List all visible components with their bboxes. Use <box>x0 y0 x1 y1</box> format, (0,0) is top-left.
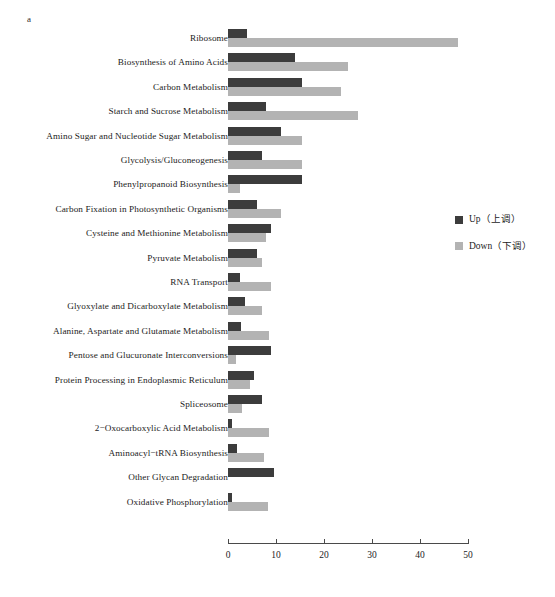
category-label: Glycolysis/Gluconeogenesis <box>121 156 228 165</box>
chart-row: Aminoacyl−tRNA Biosynthesis <box>0 442 555 466</box>
category-label: Protein Processing in Endoplasmic Reticu… <box>55 376 228 385</box>
bar-down <box>228 87 341 96</box>
bar-up <box>228 493 232 502</box>
panel-label: a <box>27 14 31 24</box>
bar-up <box>228 273 240 282</box>
bar-up <box>228 322 241 331</box>
category-label: Spliceosome <box>180 400 228 409</box>
category-label: Aminoacyl−tRNA Biosynthesis <box>109 449 228 458</box>
legend-item-down: Down（下调） <box>455 242 532 252</box>
bar-up <box>228 371 254 380</box>
bar-down <box>228 502 268 511</box>
chart-row: Phenylpropanoid Biosynthesis <box>0 173 555 197</box>
chart-row: Oxidative Phosphorylation <box>0 491 555 515</box>
x-axis-tick <box>228 539 229 544</box>
bar-down <box>228 331 269 340</box>
kegg-pathway-bar-chart: a RibosomeBiosynthesis of Amino AcidsCar… <box>0 0 555 597</box>
bar-up <box>228 127 281 136</box>
chart-row: Spliceosome <box>0 393 555 417</box>
bar-up <box>228 175 302 184</box>
category-label: Cysteine and Methionine Metabolism <box>86 230 228 239</box>
chart-row: Glyoxylate and Dicarboxylate Metabolism <box>0 295 555 319</box>
x-axis-tick-label: 40 <box>415 550 425 560</box>
bar-up <box>228 249 257 258</box>
bar-up <box>228 200 257 209</box>
bar-up <box>228 419 232 428</box>
bar-up <box>228 102 266 111</box>
chart-row: RNA Transport <box>0 271 555 295</box>
bar-up <box>228 53 295 62</box>
chart-row: Amino Sugar and Nucleotide Sugar Metabol… <box>0 125 555 149</box>
bar-up <box>228 444 237 453</box>
chart-row: Pentose and Glucuronate Interconversions <box>0 344 555 368</box>
chart-row: Carbon Metabolism <box>0 76 555 100</box>
x-axis-tick <box>372 539 373 544</box>
bar-down <box>228 38 458 47</box>
bar-down <box>228 184 240 193</box>
x-axis-tick <box>276 539 277 544</box>
legend-swatch-up <box>455 216 463 224</box>
category-label: Pentose and Glucuronate Interconversions <box>69 352 228 361</box>
bar-up <box>228 468 274 477</box>
x-axis-tick-label: 50 <box>463 550 473 560</box>
bar-up <box>228 346 271 355</box>
x-axis-tick-label: 0 <box>226 550 231 560</box>
bar-down <box>228 380 250 389</box>
chart-row: 2−Oxocarboxylic Acid Metabolism <box>0 417 555 441</box>
category-label: Carbon Fixation in Photosynthetic Organi… <box>55 205 228 214</box>
category-label: Ribosome <box>190 34 228 43</box>
bar-up <box>228 29 247 38</box>
category-label: 2−Oxocarboxylic Acid Metabolism <box>95 425 228 434</box>
bar-down <box>228 233 266 242</box>
bar-down <box>228 258 262 267</box>
category-label: RNA Transport <box>170 278 228 287</box>
category-label: Glyoxylate and Dicarboxylate Metabolism <box>67 303 228 312</box>
bar-up <box>228 78 302 87</box>
category-label: Carbon Metabolism <box>153 83 228 92</box>
chart-row: Alanine, Aspartate and Glutamate Metabol… <box>0 320 555 344</box>
legend-label-down: Down（下调） <box>469 242 532 252</box>
category-label: Amino Sugar and Nucleotide Sugar Metabol… <box>46 132 228 141</box>
x-axis-tick-label: 10 <box>271 550 281 560</box>
chart-row: Starch and Sucrose Metabolism <box>0 100 555 124</box>
x-axis-tick <box>468 539 469 544</box>
x-axis-tick-label: 20 <box>319 550 329 560</box>
bar-down <box>228 62 348 71</box>
x-axis-tick-label: 30 <box>367 550 377 560</box>
category-label: Phenylpropanoid Biosynthesis <box>113 181 228 190</box>
bar-up <box>228 224 271 233</box>
x-axis-tick <box>324 539 325 544</box>
chart-row: Other Glycan Degradation <box>0 466 555 490</box>
category-label: Biosynthesis of Amino Acids <box>118 59 228 68</box>
category-label: Oxidative Phosphorylation <box>127 498 228 507</box>
chart-row: Protein Processing in Endoplasmic Reticu… <box>0 369 555 393</box>
bar-down <box>228 355 236 364</box>
bar-down <box>228 428 269 437</box>
bar-down <box>228 453 264 462</box>
bar-down <box>228 160 302 169</box>
bar-down <box>228 209 281 218</box>
bar-up <box>228 395 262 404</box>
chart-row: Biosynthesis of Amino Acids <box>0 51 555 75</box>
category-label: Pyruvate Metabolism <box>147 254 228 263</box>
category-label: Starch and Sucrose Metabolism <box>108 108 228 117</box>
chart-row: Ribosome <box>0 27 555 51</box>
bar-down <box>228 404 242 413</box>
bar-up <box>228 297 245 306</box>
x-axis-tick <box>420 539 421 544</box>
legend-swatch-down <box>455 242 463 250</box>
legend-item-up: Up（上调） <box>455 215 532 225</box>
legend-label-up: Up（上调） <box>469 215 521 225</box>
chart-legend: Up（上调） Down（下调） <box>455 215 532 268</box>
chart-row: Glycolysis/Gluconeogenesis <box>0 149 555 173</box>
bar-down <box>228 136 302 145</box>
bar-down <box>228 111 358 120</box>
bar-down <box>228 282 271 291</box>
category-label: Alanine, Aspartate and Glutamate Metabol… <box>53 327 228 336</box>
category-label: Other Glycan Degradation <box>128 474 228 483</box>
bar-up <box>228 151 262 160</box>
x-axis-line <box>228 543 468 544</box>
bar-down <box>228 306 262 315</box>
